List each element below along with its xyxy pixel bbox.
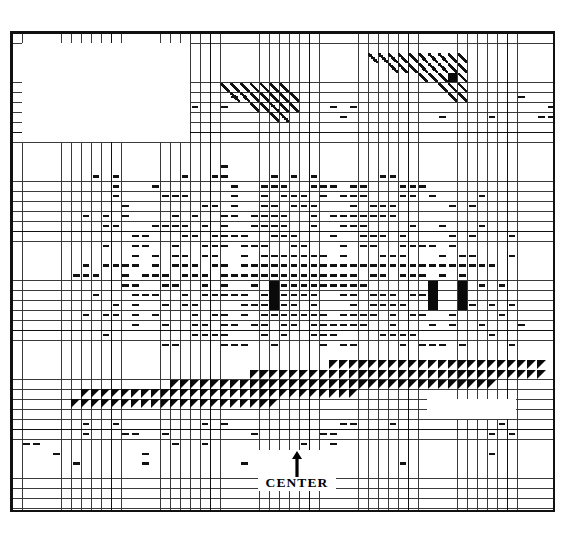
triangle-fill-stitch: [230, 380, 239, 389]
diagonal-slash-stitch: [448, 92, 458, 102]
dash-stitch: [330, 185, 337, 187]
dash-stitch: [479, 324, 486, 326]
dash-stitch: [380, 215, 387, 217]
dash-stitch: [162, 324, 169, 326]
triangle-fill-stitch: [477, 380, 486, 389]
dash-stitch: [360, 185, 367, 187]
diagonal-slash-stitch: [438, 53, 448, 63]
dash-stitch: [261, 205, 268, 207]
dash-stitch: [311, 274, 318, 276]
dash-stitch: [221, 284, 228, 286]
dash-stitch: [83, 314, 90, 316]
diagonal-slash-stitch: [388, 63, 398, 73]
diagonal-slash-stitch: [240, 92, 250, 102]
dash-stitch: [271, 344, 278, 346]
dash-stitch: [142, 453, 149, 455]
dash-stitch: [221, 245, 228, 247]
dash-stitch: [182, 235, 189, 237]
triangle-fill-stitch: [141, 399, 150, 408]
dash-stitch: [132, 264, 139, 266]
dash-stitch: [162, 304, 169, 306]
dash-stitch: [311, 225, 318, 227]
dash-stitch: [370, 304, 377, 306]
dash-stitch: [340, 245, 347, 247]
diagonal-slash-stitch: [418, 63, 428, 73]
dash-stitch: [162, 274, 169, 276]
dash-stitch: [261, 255, 268, 257]
dash-stitch: [152, 294, 159, 296]
dash-stitch: [489, 304, 496, 306]
dash-stitch: [330, 235, 337, 237]
triangle-fill-stitch: [269, 389, 278, 398]
dash-stitch: [192, 334, 199, 336]
triangle-fill-stitch: [230, 389, 239, 398]
up-arrow-icon: [291, 451, 303, 477]
triangle-fill-stitch: [279, 389, 288, 398]
diagonal-slash-stitch: [438, 63, 448, 73]
dash-stitch: [350, 225, 357, 227]
dash-stitch: [509, 433, 516, 435]
dash-stitch: [231, 274, 238, 276]
dash-stitch: [122, 215, 129, 217]
triangle-fill-stitch: [279, 370, 288, 379]
diagonal-slash-stitch: [388, 53, 398, 63]
dash-stitch: [281, 294, 288, 296]
triangle-fill-stitch: [180, 380, 189, 389]
dash-stitch: [390, 264, 397, 266]
dash-stitch: [360, 245, 367, 247]
dash-stitch: [202, 324, 209, 326]
triangle-fill-stitch: [418, 360, 427, 369]
dash-stitch: [469, 235, 476, 237]
dash-stitch: [350, 205, 357, 207]
triangle-fill-stitch: [91, 389, 100, 398]
dash-stitch: [103, 314, 110, 316]
dash-stitch: [271, 255, 278, 257]
triangle-fill-stitch: [507, 370, 516, 379]
dash-stitch: [192, 274, 199, 276]
triangle-fill-stitch: [368, 360, 377, 369]
dash-stitch: [132, 284, 139, 286]
dash-stitch: [350, 215, 357, 217]
diagonal-slash-stitch: [438, 83, 448, 93]
dash-stitch: [350, 284, 357, 286]
dash-stitch: [400, 304, 407, 306]
dash-stitch: [172, 264, 179, 266]
dash-stitch: [212, 175, 219, 177]
diagonal-slash-stitch: [269, 92, 279, 102]
dash-stitch: [449, 205, 456, 207]
dash-stitch: [231, 344, 238, 346]
dash-stitch: [370, 294, 377, 296]
dash-stitch: [241, 304, 248, 306]
dash-stitch: [340, 215, 347, 217]
dash-stitch: [251, 245, 258, 247]
dash-stitch: [449, 264, 456, 266]
dash-stitch: [350, 423, 357, 425]
triangle-fill-stitch: [537, 360, 546, 369]
dash-stitch: [410, 274, 417, 276]
solid-fill-stitch: [458, 281, 468, 291]
dash-stitch: [241, 274, 248, 276]
dash-stitch: [93, 175, 100, 177]
triangle-fill-stitch: [299, 389, 308, 398]
dash-stitch: [281, 215, 288, 217]
dash-stitch: [132, 255, 139, 257]
diagonal-slash-stitch: [260, 92, 270, 102]
diagonal-slash-stitch: [230, 83, 240, 93]
dash-stitch: [271, 185, 278, 187]
dash-stitch: [83, 215, 90, 217]
dash-stitch: [113, 423, 120, 425]
diagonal-slash-stitch: [260, 83, 270, 93]
dash-stitch: [311, 215, 318, 217]
dash-stitch: [330, 284, 337, 286]
dash-stitch: [459, 255, 466, 257]
dash-stitch: [281, 264, 288, 266]
dash-stitch: [499, 284, 506, 286]
dash-stitch: [113, 185, 120, 187]
dash-stitch: [192, 314, 199, 316]
cross-stitch-chart[interactable]: [10, 31, 555, 512]
dash-stitch: [311, 324, 318, 326]
dash-stitch: [221, 334, 228, 336]
dash-stitch: [291, 304, 298, 306]
dash-stitch: [390, 334, 397, 336]
dash-stitch: [390, 423, 397, 425]
